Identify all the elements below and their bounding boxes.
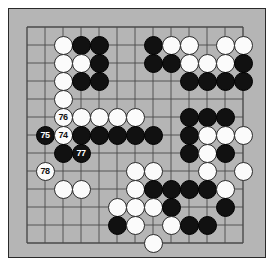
go-stone-black[interactable]	[234, 72, 253, 91]
go-stone-move-75[interactable]: 75	[36, 126, 55, 145]
go-stone-black[interactable]	[108, 216, 127, 235]
go-stone-black[interactable]	[180, 108, 199, 127]
go-stone-black[interactable]	[180, 126, 199, 145]
go-stone-move-78[interactable]: 78	[36, 162, 55, 181]
go-stone-white[interactable]	[162, 216, 181, 235]
go-stone-black[interactable]	[216, 144, 235, 163]
go-stone-white[interactable]	[126, 108, 145, 127]
move-number-label: 76	[58, 113, 67, 122]
go-stone-white[interactable]	[54, 72, 73, 91]
go-stone-black[interactable]	[180, 216, 199, 235]
go-stone-black[interactable]	[162, 198, 181, 217]
go-stone-black[interactable]	[180, 72, 199, 91]
go-stone-black[interactable]	[72, 126, 91, 145]
go-stone-white[interactable]	[126, 216, 145, 235]
go-stone-white[interactable]	[108, 198, 127, 217]
go-stone-white[interactable]	[216, 54, 235, 73]
go-stone-black[interactable]	[90, 72, 109, 91]
go-stone-black[interactable]	[198, 72, 217, 91]
go-stone-white[interactable]	[216, 36, 235, 55]
go-stone-black[interactable]	[108, 126, 127, 145]
go-stone-black[interactable]	[72, 72, 91, 91]
go-stone-black[interactable]	[162, 180, 181, 199]
go-stone-black[interactable]	[144, 36, 163, 55]
go-stone-white[interactable]	[126, 162, 145, 181]
go-stone-black[interactable]	[144, 180, 163, 199]
go-stone-black[interactable]	[198, 108, 217, 127]
go-board-frame: 7675747778	[8, 8, 266, 258]
go-stone-white[interactable]	[198, 144, 217, 163]
go-stone-white[interactable]	[54, 90, 73, 109]
go-stone-white[interactable]	[144, 198, 163, 217]
go-stone-white[interactable]	[180, 54, 199, 73]
go-stone-black[interactable]	[72, 36, 91, 55]
go-stone-white[interactable]	[72, 180, 91, 199]
move-number-label: 77	[76, 149, 85, 158]
move-number-label: 78	[40, 167, 49, 176]
go-stone-white[interactable]	[162, 36, 181, 55]
go-stone-white[interactable]	[216, 180, 235, 199]
move-number-label: 75	[40, 131, 49, 140]
go-stone-white[interactable]	[126, 198, 145, 217]
go-stone-layer: 7675747778	[9, 9, 267, 259]
go-stone-black[interactable]	[144, 126, 163, 145]
go-stone-white[interactable]	[198, 162, 217, 181]
go-diagram-root: 7675747778	[0, 0, 276, 268]
go-stone-white[interactable]	[144, 234, 163, 253]
go-stone-black[interactable]	[198, 180, 217, 199]
go-stone-white[interactable]	[234, 162, 253, 181]
go-stone-white[interactable]	[90, 108, 109, 127]
move-number-label: 74	[58, 131, 67, 140]
go-stone-black[interactable]	[216, 198, 235, 217]
go-stone-black[interactable]	[234, 54, 253, 73]
go-stone-white[interactable]	[54, 54, 73, 73]
go-stone-white[interactable]	[144, 162, 163, 181]
go-stone-white[interactable]	[72, 108, 91, 127]
go-stone-white[interactable]	[216, 126, 235, 145]
go-stone-black[interactable]	[216, 72, 235, 91]
go-stone-black[interactable]	[90, 126, 109, 145]
go-stone-black[interactable]	[162, 54, 181, 73]
go-stone-white[interactable]	[108, 108, 127, 127]
go-stone-white[interactable]	[198, 126, 217, 145]
go-stone-black[interactable]	[90, 36, 109, 55]
go-stone-black[interactable]	[54, 144, 73, 163]
go-stone-black[interactable]	[144, 54, 163, 73]
go-stone-black[interactable]	[180, 180, 199, 199]
go-stone-white[interactable]	[54, 180, 73, 199]
go-stone-white[interactable]	[180, 36, 199, 55]
go-stone-white[interactable]	[54, 36, 73, 55]
go-stone-black[interactable]	[198, 216, 217, 235]
go-stone-white[interactable]	[72, 54, 91, 73]
go-stone-black[interactable]	[126, 126, 145, 145]
go-stone-black[interactable]	[180, 144, 199, 163]
go-stone-white[interactable]	[234, 126, 253, 145]
go-stone-move-74[interactable]: 74	[54, 126, 73, 145]
go-stone-move-77[interactable]: 77	[72, 144, 91, 163]
go-stone-white[interactable]	[198, 54, 217, 73]
go-stone-black[interactable]	[216, 108, 235, 127]
go-stone-white[interactable]	[126, 180, 145, 199]
go-stone-white[interactable]	[234, 36, 253, 55]
go-stone-black[interactable]	[90, 54, 109, 73]
go-stone-move-76[interactable]: 76	[54, 108, 73, 127]
go-board-surface[interactable]: 7675747778	[9, 9, 267, 259]
